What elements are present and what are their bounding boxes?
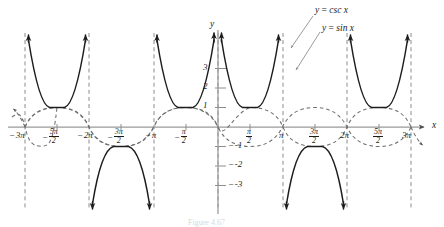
sin-annotation-label: y = sin x	[322, 24, 354, 34]
x-tick-label-3pi-2: 3π2	[309, 128, 319, 145]
y-tick-label-3: 3	[203, 63, 208, 72]
x-tick-label-neg-3pi-2: −3π2	[107, 128, 124, 145]
y-axis-label: y	[210, 20, 214, 30]
x-tick-label-neg-5pi-2: −5π2	[42, 128, 59, 145]
x-tick-label-neg-3pi: −3π	[9, 131, 25, 140]
y-tick-label-neg-1: −-1	[228, 141, 242, 150]
csc-annotation-label: y = csc x	[315, 6, 348, 16]
figure-caption: Figure 4.67	[188, 219, 225, 227]
x-tick-label-5pi-2: 5π2	[373, 128, 383, 145]
x-tick-label-neg-pi-2: −π2	[174, 128, 187, 145]
x-tick-label-2pi: 2π	[340, 131, 349, 140]
figure-container: −3π −5π2 −2π −3π2 −π −π2 π2 π 3π2 2π 5π2…	[0, 0, 444, 227]
x-tick-label-pi-2: π2	[246, 128, 252, 145]
y-tick-label-1: 1	[203, 101, 208, 110]
x-tick-label-pi: π	[279, 131, 284, 140]
y-tick-label-2: 2	[203, 82, 208, 91]
x-tick-label-neg-pi: −π	[145, 131, 156, 140]
graph-canvas	[0, 0, 444, 227]
y-tick-label-neg-3: −-3	[228, 180, 242, 189]
x-axis-label: x	[432, 121, 436, 131]
y-tick-label-neg-2: −-2	[228, 160, 242, 169]
x-tick-label-neg-2pi: −2π	[77, 131, 93, 140]
x-tick-label-3pi: 3π	[402, 131, 411, 140]
